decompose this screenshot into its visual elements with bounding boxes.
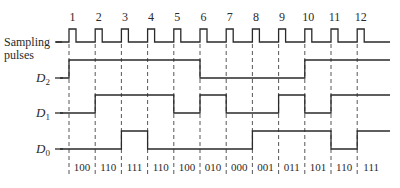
signal-labels: SamplingpulsesD2D1D0 (4, 35, 63, 158)
label-pulses: pulses (4, 48, 34, 62)
state-label: 110 (153, 161, 170, 173)
pulse-number: 1 (70, 10, 76, 24)
pulse-number: 5 (174, 10, 180, 24)
wave-d0 (60, 131, 390, 149)
wave-d1 (60, 95, 390, 113)
timing-diagram: SamplingpulsesD2D1D0 123456789101112 100… (0, 0, 400, 188)
state-label: 000 (231, 161, 248, 173)
state-label: 101 (310, 161, 327, 173)
state-label: 100 (74, 161, 91, 173)
state-label: 100 (179, 161, 196, 173)
state-label: 111 (363, 161, 379, 173)
pulse-number: 4 (148, 10, 154, 24)
sampling-pulses-wave (56, 29, 390, 42)
pulse-number: 9 (279, 10, 285, 24)
pulse-number: 8 (253, 10, 259, 24)
state-label: 010 (205, 161, 222, 173)
label-d1: D1 (35, 105, 50, 122)
pulse-number: 10 (302, 10, 314, 24)
pulse-number: 7 (227, 10, 233, 24)
pulse-number: 12 (355, 10, 367, 24)
pulse-number: 11 (329, 10, 341, 24)
sampling-guide-lines (69, 44, 357, 176)
state-label: 110 (336, 161, 353, 173)
state-label: 001 (257, 161, 274, 173)
state-label: 011 (284, 161, 300, 173)
state-label: 110 (100, 161, 117, 173)
pulse-number: 3 (122, 10, 128, 24)
state-label: 111 (127, 161, 143, 173)
label-d0: D0 (35, 141, 50, 158)
label-d2: D2 (35, 70, 50, 87)
pulse-number: 6 (201, 10, 207, 24)
label-sampling: Sampling (4, 35, 50, 49)
pulse-numbers: 123456789101112 (70, 10, 367, 24)
wave-d2 (60, 60, 390, 78)
pulse-number: 2 (96, 10, 102, 24)
waveforms (56, 29, 390, 149)
